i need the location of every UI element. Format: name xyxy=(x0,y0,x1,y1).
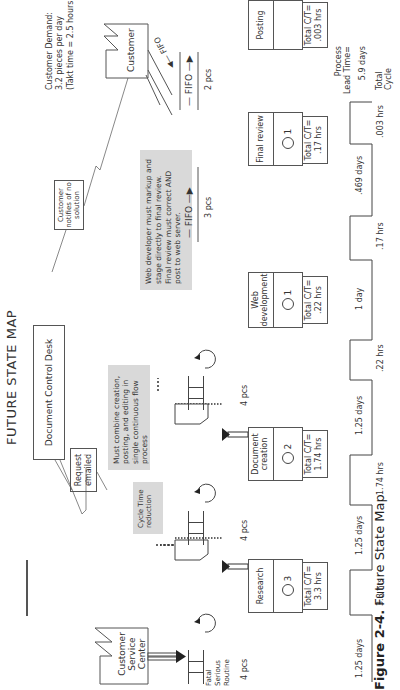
ct-label: Total C/T= xyxy=(304,563,314,609)
process-posting-ct: Total C/T= .003 hrs xyxy=(302,2,328,48)
customer-service-center-label: Customer Service Center xyxy=(118,632,148,676)
fifo-count-1: 3 pcs xyxy=(204,197,213,218)
lead-time-label: Process Lead Time= xyxy=(334,46,352,96)
ct-label: Total C/T= xyxy=(304,117,314,163)
note-cycle-time: Cycle Time reduction xyxy=(133,482,163,534)
timeline-wait-2: 1.25 days xyxy=(355,396,364,435)
figure-caption-rotated: Figure 2-4. Future State Map xyxy=(372,494,387,690)
customer-label: Customer xyxy=(126,28,136,72)
inventory-label-0: 4 pcs xyxy=(240,659,249,680)
priority-routine: Routine xyxy=(223,659,232,686)
process-web-development-name: Web development xyxy=(249,273,274,327)
process-document-creation-box: Document creation 2 xyxy=(248,427,303,481)
inventory-label-2: 4 pcs xyxy=(240,385,249,406)
operator-icon xyxy=(282,137,294,149)
operator-icon xyxy=(282,452,294,464)
timeline-process-3: .17 hrs xyxy=(376,222,385,250)
process-document-creation-operators: 2 xyxy=(283,444,293,450)
process-research-name: Research xyxy=(249,560,274,612)
process-final-review-ct: Total C/T= .17 hrs xyxy=(302,116,328,164)
inventory-triangle-0 xyxy=(188,650,204,684)
process-web-development-body: 1 xyxy=(274,273,302,327)
process-research xyxy=(26,560,28,616)
fifo-label: FIFO xyxy=(184,74,194,94)
timeline-wait-3: 1 day xyxy=(355,288,364,310)
inventory-triangle-2 xyxy=(188,376,204,410)
figure-caption-label: Figure 2-4. xyxy=(372,610,387,690)
process-web-development-operators: 1 xyxy=(283,290,293,296)
timeline-process-2: .22 hrs xyxy=(376,344,385,372)
process-posting-box: Posting xyxy=(248,0,303,50)
timeline-process-4: .003 hrs xyxy=(376,105,385,138)
customer-demand-line2: 3.2 pieces per day xyxy=(55,0,65,90)
priority-fatal: Fatal xyxy=(205,659,214,686)
ct-label: Total C/T= xyxy=(304,277,314,323)
customer-demand-line3: (Takt time = 2.5 hours) xyxy=(66,0,76,90)
operator-icon xyxy=(282,584,294,596)
process-document-creation-name: Document creation xyxy=(249,428,274,480)
timeline-wait-0: 1.25 days xyxy=(355,639,364,678)
note-combine: Must combine creation, posting, and edit… xyxy=(108,365,150,470)
timeline-wait-1: 1.25 days xyxy=(355,516,364,555)
ct-value: 3.3 hrs xyxy=(314,563,324,609)
timeline-process-1: 1.74 hrs xyxy=(376,462,385,495)
total-cycle-label: Total Cycle xyxy=(376,60,394,90)
priority-serious: Serious xyxy=(214,659,223,686)
operator-icon xyxy=(282,298,294,310)
process-web-development-ct: Total C/T= .22 hrs xyxy=(302,276,328,324)
timeline-wait-4: .469 days xyxy=(355,156,364,195)
fifo-count-2: 2 pcs xyxy=(204,69,213,90)
lead-time-value: 5.9 days xyxy=(358,46,367,96)
process-research-box: Research 3 xyxy=(248,559,303,613)
process-research-body: 3 xyxy=(274,560,302,612)
ct-label: Total C/T= xyxy=(304,3,314,47)
ct-value: .22 hrs xyxy=(314,277,324,323)
ct-label: Total C/T= xyxy=(304,431,314,477)
connector-lines xyxy=(0,0,400,690)
process-research-operators: 3 xyxy=(283,576,293,582)
process-document-creation-body: 2 xyxy=(274,428,302,480)
process-document-creation-ct: Total C/T= 1.74 hrs xyxy=(302,430,328,478)
priority-list: Fatal Serious Routine xyxy=(205,659,231,686)
process-final-review-name: Final review xyxy=(249,113,274,165)
fifo-lane-1: — FIFO —▶ xyxy=(184,187,194,238)
ct-value: 1.74 hrs xyxy=(314,431,324,477)
process-web-development-box: Web development 1 xyxy=(248,272,303,328)
process-final-review-box: Final review 1 xyxy=(248,112,303,166)
customer-demand: Customer Demand: 3.2 pieces per day (Tak… xyxy=(45,0,76,90)
figure-caption-text: Future State Map xyxy=(372,494,387,606)
fifo-label: FIFO xyxy=(184,206,194,226)
ct-value: .003 hrs xyxy=(314,3,324,47)
process-final-review-operators: 1 xyxy=(283,129,293,135)
process-research-ct: Total C/T= 3.3 hrs xyxy=(302,562,328,610)
process-final-review-body: 1 xyxy=(274,113,302,165)
inventory-label-1: 4 pcs xyxy=(240,520,249,541)
process-posting-name: Posting xyxy=(249,1,274,49)
ct-value: .17 hrs xyxy=(314,117,324,163)
inventory-triangle-1 xyxy=(188,511,204,545)
value-stream-map: FUTURE STATE MAP Document Control Desk R… xyxy=(0,0,400,690)
fifo-lane-2: — FIFO —▶ xyxy=(184,55,194,106)
process-posting-body xyxy=(274,1,302,49)
customer-demand-line1: Customer Demand: xyxy=(45,0,55,90)
